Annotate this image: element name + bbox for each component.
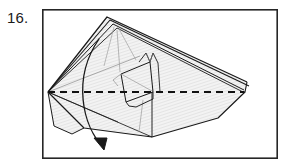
origami-diagram — [42, 9, 278, 159]
figure-frame — [42, 9, 278, 159]
step-number-label: 16. — [7, 9, 28, 26]
page-root: 16. — [0, 0, 288, 165]
